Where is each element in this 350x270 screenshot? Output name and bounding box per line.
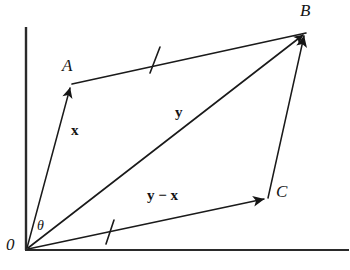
vector-x — [27, 88, 70, 248]
diagram-canvas — [0, 0, 350, 270]
point-label-a: A — [62, 57, 72, 74]
vector-label-y: y — [175, 105, 183, 120]
vector-diagram: 0 A B C x y y − x θ — [0, 0, 350, 270]
point-label-o: 0 — [6, 236, 15, 253]
point-label-b: B — [300, 2, 310, 19]
segment-ab — [72, 33, 306, 84]
vector-label-y-minus-x: y − x — [147, 188, 178, 203]
angle-label-theta: θ — [37, 219, 44, 233]
vector-label-x: x — [71, 123, 79, 138]
vector-y-minus-x — [28, 199, 264, 249]
point-label-c: C — [276, 183, 287, 200]
tick-mark-upper — [150, 47, 160, 73]
segment-cb — [268, 36, 304, 198]
